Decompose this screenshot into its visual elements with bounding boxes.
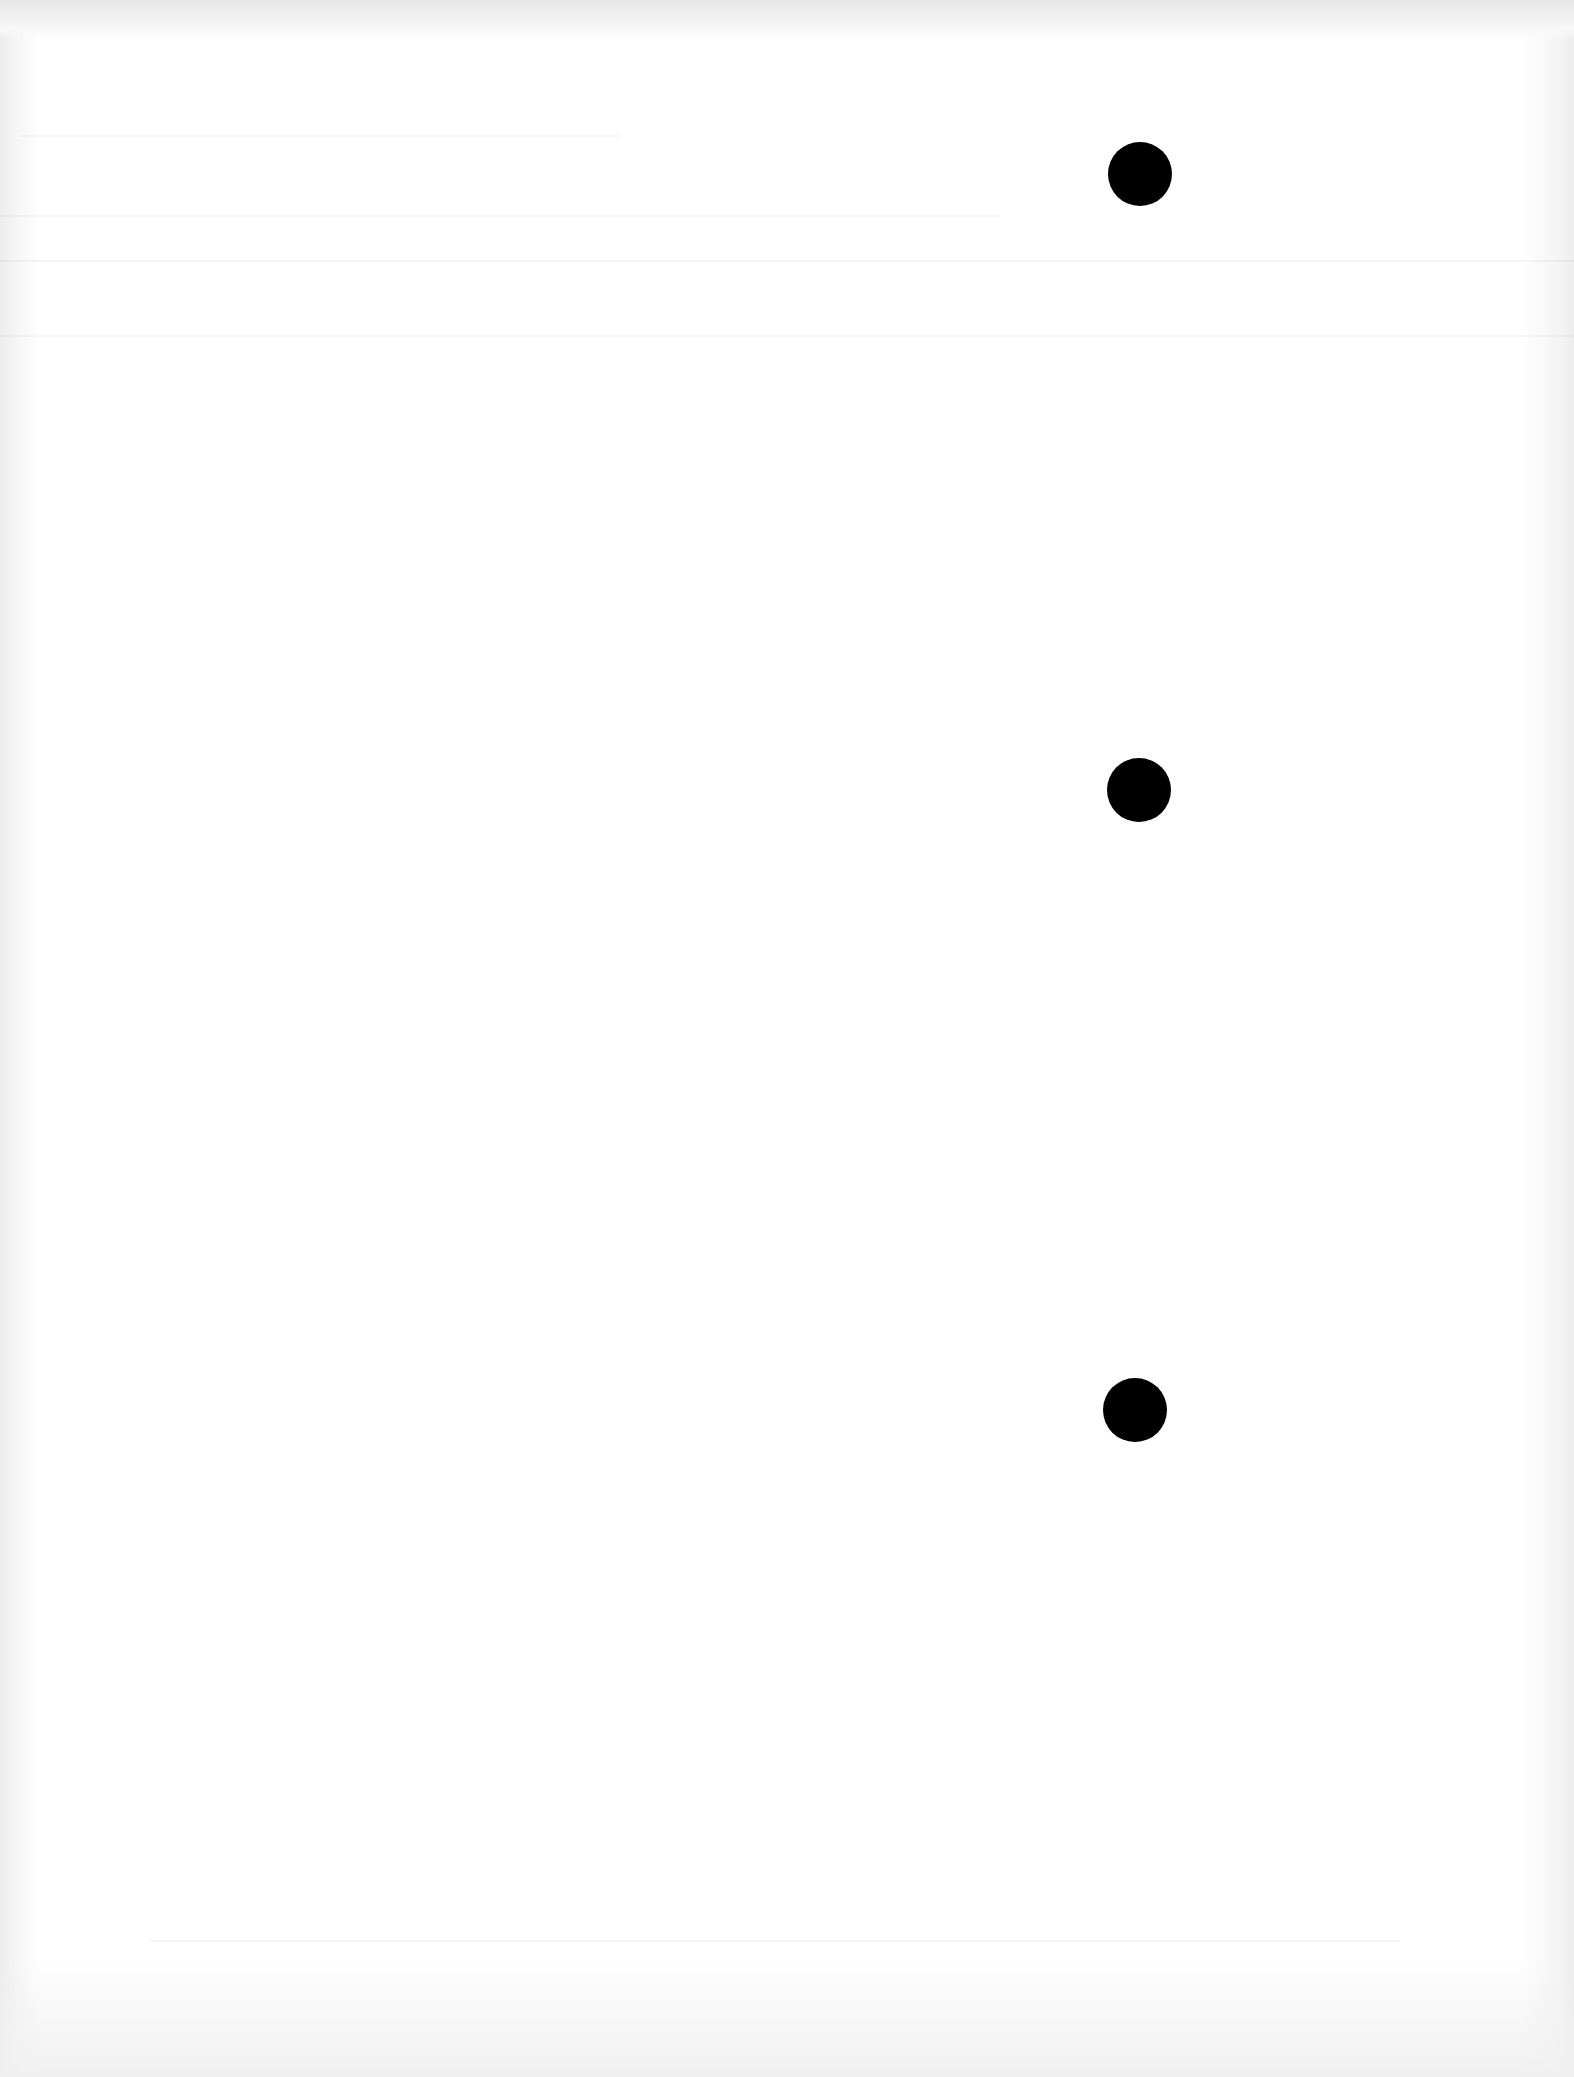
bleed-through-line	[0, 260, 1574, 262]
bleed-through-line	[0, 335, 1574, 337]
punch-hole-bottom	[1103, 1378, 1167, 1442]
scan-top-edge-shadow	[0, 0, 1574, 40]
scan-bottom-edge-shadow	[0, 1957, 1574, 2077]
punch-hole-top	[1108, 142, 1172, 206]
punch-hole-middle	[1107, 758, 1171, 822]
bleed-through-line	[0, 215, 1000, 217]
bleed-through-line	[20, 135, 620, 137]
bleed-through-line	[150, 1940, 1400, 1942]
blank-document-page	[0, 0, 1574, 2077]
